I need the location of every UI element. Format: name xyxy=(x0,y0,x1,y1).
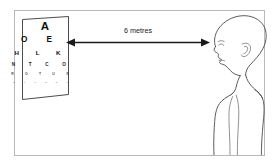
chart-row-letters: N T C O xyxy=(12,62,72,67)
chart-row-letters: Z F H N D P xyxy=(14,81,73,83)
chart-row: Z F H N D P xyxy=(14,81,73,83)
chart-row-letters: R O T U X xyxy=(11,72,73,76)
chart-row: N T C O xyxy=(12,62,72,67)
chart-row: O E xyxy=(21,35,61,44)
chart-row-letters: O E xyxy=(21,35,61,44)
chart-row-letters: H L K xyxy=(14,49,68,56)
chart-row-letters: A xyxy=(41,20,49,32)
chart-row: R O T U X xyxy=(11,72,73,76)
diagram-canvas: A O E H L K N T C O R O T U X Z F H N D … xyxy=(0,0,279,166)
chart-row: A xyxy=(41,20,49,32)
chart-row: H L K xyxy=(14,49,68,56)
distance-label: 6 metres xyxy=(124,26,152,35)
eye-test-diagram: A O E H L K N T C O R O T U X Z F H N D … xyxy=(0,0,279,166)
